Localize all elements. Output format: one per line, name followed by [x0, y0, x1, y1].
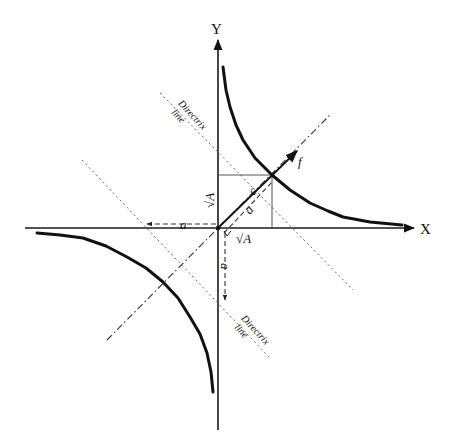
- directrix-lower-label: Directrix line: [231, 312, 273, 355]
- directrix-upper-label: Directrix line: [168, 97, 210, 140]
- sqrtA-horizontal-label: √A: [236, 231, 251, 246]
- sqrtA-vertical-label: √A: [202, 193, 217, 208]
- hyperbola-diagram: X Y Directrix line Directrix line f c a …: [0, 0, 452, 448]
- y-axis-label: Y: [211, 21, 222, 37]
- origin-point: [216, 226, 220, 230]
- semi-axis-label: a: [241, 202, 257, 217]
- a-left-label: a: [180, 217, 187, 232]
- hyperbola-upper-branch: [223, 67, 402, 225]
- a-down-label: a: [218, 263, 233, 270]
- focus-label: f: [298, 154, 304, 169]
- hyperbola-lower-branch: [37, 233, 213, 392]
- x-axis-label: X: [420, 221, 431, 237]
